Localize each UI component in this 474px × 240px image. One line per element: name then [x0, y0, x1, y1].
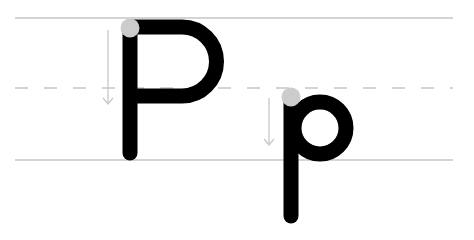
down-arrow-icon: [103, 30, 113, 104]
start-dot-icon: [282, 88, 301, 107]
down-arrow-icon: [264, 98, 274, 145]
start-dot-icon: [121, 19, 140, 38]
lowercase-p-glyph: [291, 97, 346, 216]
handwriting-guide: Letter P handwriting guide P p: [0, 0, 474, 240]
uppercase-p-glyph: [130, 27, 217, 153]
guide-canvas: [0, 0, 474, 240]
